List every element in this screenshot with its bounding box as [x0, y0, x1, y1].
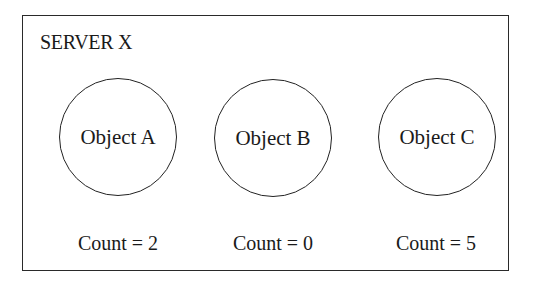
object-b-count: Count = 0 — [203, 232, 343, 255]
object-a-circle: Object A — [59, 78, 177, 196]
object-c-count: Count = 5 — [366, 232, 506, 255]
object-a-label: Object A — [80, 125, 155, 150]
object-c-label: Object C — [399, 125, 474, 150]
object-a-count: Count = 2 — [48, 232, 188, 255]
object-b-circle: Object B — [214, 79, 332, 197]
object-c-circle: Object C — [378, 78, 496, 196]
object-b-label: Object B — [235, 126, 310, 151]
server-title: SERVER X — [40, 31, 132, 54]
